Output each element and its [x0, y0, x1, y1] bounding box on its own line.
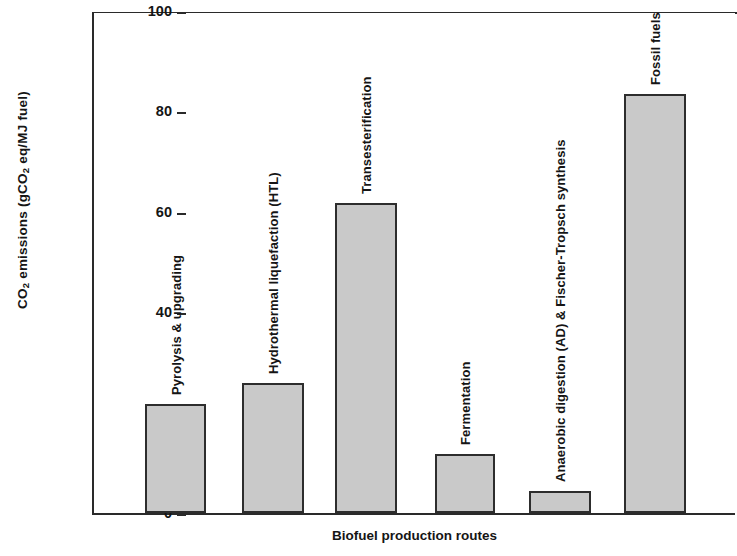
y-axis-tick-mark: [177, 213, 186, 215]
y-axis-title-suffix: eq/MJ fuel): [15, 91, 30, 168]
x-axis-title: Biofuel production routes: [92, 528, 737, 543]
bar-category-label: Transesterification: [359, 76, 374, 194]
y-axis-title: CO2 emissions (gCO2 eq/MJ fuel): [15, 40, 31, 360]
bar: [335, 203, 397, 513]
y-axis-tick-mark: [177, 514, 186, 516]
bar: [435, 454, 495, 513]
bar: [624, 94, 686, 513]
y-axis-title-sub-1: 2: [20, 283, 31, 288]
y-axis-tick-label: 100: [148, 3, 172, 19]
plot-area: 020406080100 Pyrolysis & upgradingHydrot…: [92, 13, 735, 515]
y-axis-title-sub-2: 2: [20, 168, 31, 173]
y-axis-tick-label: 60: [156, 204, 172, 220]
y-axis-title-prefix: CO: [15, 288, 30, 309]
bar-chart-figure: CO2 emissions (gCO2 eq/MJ fuel) 02040608…: [0, 0, 737, 556]
bar: [145, 404, 206, 513]
y-axis-title-mid: emissions (gCO: [15, 173, 30, 283]
bar-category-label: Anaerobic digestion (AD) & Fischer-Trops…: [553, 139, 568, 482]
bar-category-label: Fermentation: [458, 361, 473, 445]
y-axis-tick-mark: [177, 112, 186, 114]
bar: [529, 491, 591, 513]
y-axis-tick-label: 80: [156, 103, 172, 119]
bar-category-label: Hydrothermal liquefaction (HTL): [266, 173, 281, 375]
bar-category-label: Fossil fuels: [648, 12, 663, 85]
y-axis-tick-mark: [177, 12, 186, 14]
bar-category-label: Pyrolysis & upgrading: [168, 255, 183, 395]
bar: [242, 383, 304, 513]
